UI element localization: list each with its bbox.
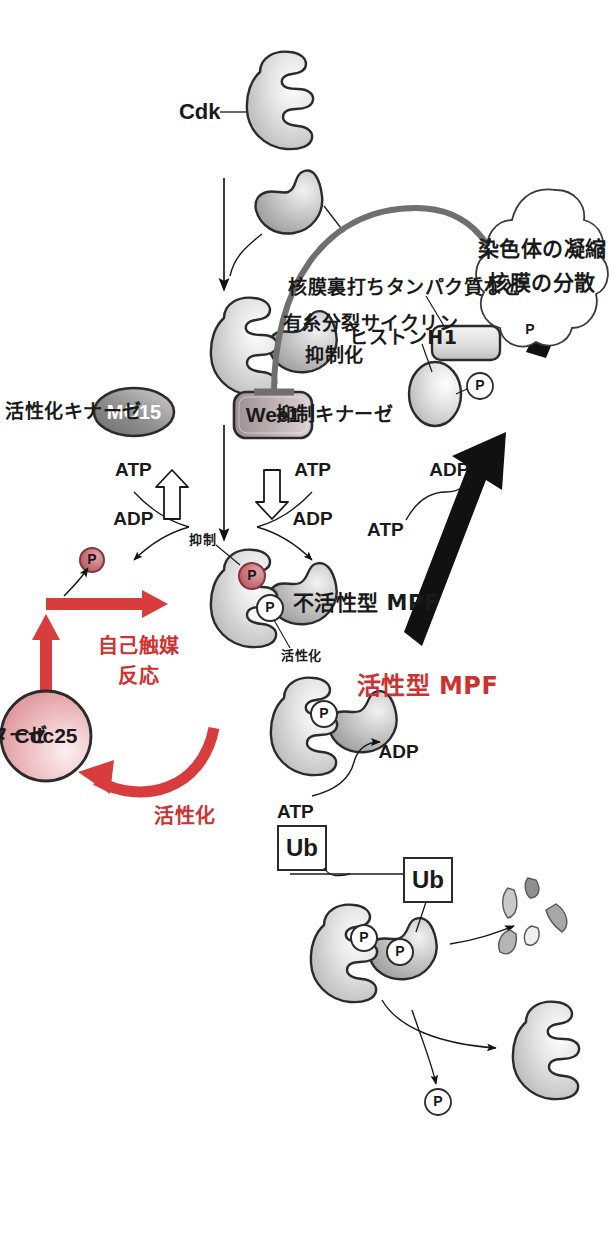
phosphate-letter-inactive-activating: P <box>265 600 274 616</box>
label-ub-lower: Ub <box>286 835 318 862</box>
label-inactive-mpf: 不活性型 MPF <box>293 592 439 616</box>
mpf-regulation-diagram: Cdk 有糸分裂サイクリン Wee1 MO15 抑制キナーゼ 活性化キナーゼ 抑… <box>0 0 612 1246</box>
label-atp-wee1: ATP <box>294 459 331 480</box>
cyclin-shape <box>256 171 323 234</box>
diagram-canvas <box>0 0 612 1246</box>
phosphate-letter-inactive-inhibitory: P <box>247 568 256 584</box>
phosphate-letter-lamin: P <box>525 322 534 338</box>
label-cdk: Cdk <box>179 100 221 125</box>
cyclin-to-complex-curve <box>230 234 262 276</box>
cyclin-fragments-shape <box>499 878 567 954</box>
label-inhibitory-kinase: 抑制キナーゼ <box>276 404 393 425</box>
label-histone-h1: ヒストンH1 <box>349 327 457 348</box>
phosphate-letter-released: P <box>87 552 96 568</box>
label-phosphatase: ホスファターゼ <box>0 725 48 746</box>
label-activate-small: 活性化 <box>281 649 322 664</box>
to-free-cdk-curve <box>382 1000 496 1048</box>
to-free-phosphate-curve <box>412 1010 436 1084</box>
phosphate-release-curve <box>64 568 88 596</box>
cloud-text-line-1: 染色体の凝縮 <box>478 238 607 262</box>
activation-red-arrowhead <box>78 760 114 794</box>
label-atp-active-mpf: ATP <box>277 801 314 822</box>
phosphate-letter-free: P <box>433 1094 442 1110</box>
phosphate-letter-ub-mpf-1: P <box>395 944 404 960</box>
label-adp-mo15: ADP <box>113 508 153 529</box>
label-autocatalytic-2: 反応 <box>118 665 159 687</box>
label-ub-upper: Ub <box>412 867 444 894</box>
cdk-shape <box>247 52 313 149</box>
label-adp-wee1: ADP <box>293 508 333 529</box>
label-atp-mo15: ATP <box>115 459 152 480</box>
ubiquitinated-mpf-shape <box>311 905 437 1002</box>
substrate-atp-arc <box>406 492 446 520</box>
cloud-text-line-2: 核膜の分散 <box>488 272 596 296</box>
label-inhibit-small: 抑制 <box>189 533 216 548</box>
mo15-adp-arc <box>134 527 189 560</box>
label-autocatalytic-1: 自己触媒 <box>98 635 180 657</box>
free-cdk-shape <box>513 1002 579 1099</box>
label-adp-substrate: ADP <box>429 459 469 480</box>
cdc25-to-mpf-red-arrow <box>32 614 60 690</box>
phosphate-letter-histone: P <box>475 378 484 394</box>
wee1-open-arrow <box>256 470 288 519</box>
label-activating-kinase: 活性化キナーゼ <box>5 401 142 422</box>
effects-cloud-shape <box>476 189 608 346</box>
activation-red-curve <box>96 728 214 792</box>
phosphate-letter-active-mpf: P <box>319 706 328 722</box>
inactive-to-active-red-arrow <box>46 590 168 618</box>
label-atp-substrate: ATP <box>367 519 404 540</box>
label-activation-red: 活性化 <box>154 805 216 827</box>
histone-h1-shape <box>409 362 493 426</box>
phosphate-letter-ub-mpf-2: P <box>359 930 368 946</box>
label-active-mpf: 活性型 MPF <box>357 673 499 700</box>
label-adp-active-mpf: ADP <box>379 741 419 762</box>
mo15-open-arrow <box>156 470 188 519</box>
